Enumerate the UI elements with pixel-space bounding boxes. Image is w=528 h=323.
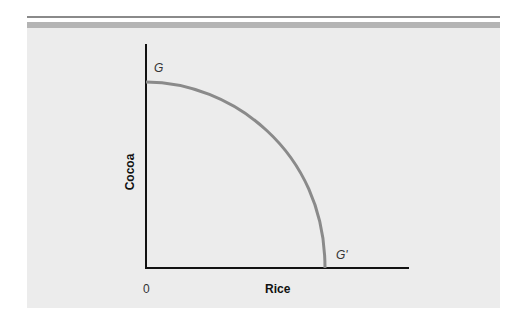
origin-label: 0 <box>143 282 150 296</box>
point-g-prime-label: G' <box>336 248 348 262</box>
x-axis-title: Rice <box>265 282 290 296</box>
ppf-diagram <box>0 0 528 323</box>
y-axis-title: Cocoa <box>123 154 137 191</box>
ppf-curve <box>146 82 325 268</box>
point-g-label: G <box>154 61 163 75</box>
